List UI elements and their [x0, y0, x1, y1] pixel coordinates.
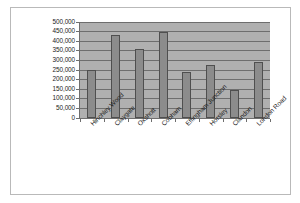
y-axis-tick — [76, 70, 79, 71]
gridline — [80, 89, 270, 90]
y-axis-label: 250,000 — [13, 67, 75, 73]
y-axis-label: 100,000 — [13, 95, 75, 101]
chart-frame: 050,000100,000150,000200,000250,000300,0… — [10, 7, 291, 195]
y-axis-tick — [76, 50, 79, 51]
y-axis-tick — [76, 79, 79, 80]
chart-figure: 050,000100,000150,000200,000250,000300,0… — [0, 0, 300, 203]
y-axis-label: 150,000 — [13, 86, 75, 92]
gridline — [80, 31, 270, 32]
y-axis-label: 0 — [13, 115, 75, 121]
y-axis-tick — [76, 89, 79, 90]
y-axis-tick — [76, 60, 79, 61]
y-axis-tick — [76, 31, 79, 32]
gridline — [80, 50, 270, 51]
y-axis-label: 50,000 — [13, 105, 75, 111]
y-axis-tick — [76, 98, 79, 99]
y-axis-label: 450,000 — [13, 28, 75, 34]
x-axis: Hinchley WoodClaygateOxshottCobhamEffing… — [79, 120, 279, 194]
gridline — [80, 22, 270, 23]
y-axis-label: 350,000 — [13, 47, 75, 53]
y-axis-label: 400,000 — [13, 38, 75, 44]
gridline — [80, 79, 270, 80]
y-axis-label: 300,000 — [13, 57, 75, 63]
bar — [159, 32, 168, 118]
gridline — [80, 98, 270, 99]
y-axis-tick — [76, 108, 79, 109]
y-axis-tick — [76, 118, 79, 119]
gridline — [80, 70, 270, 71]
gridline — [80, 60, 270, 61]
bar — [87, 70, 96, 118]
bar — [182, 72, 191, 118]
bar — [254, 62, 263, 118]
y-axis: 050,000100,000150,000200,000250,000300,0… — [11, 22, 75, 118]
y-axis-tick — [76, 41, 79, 42]
gridline — [80, 41, 270, 42]
y-axis-tick — [76, 22, 79, 23]
y-axis-label: 200,000 — [13, 76, 75, 82]
y-axis-label: 500,000 — [13, 19, 75, 25]
